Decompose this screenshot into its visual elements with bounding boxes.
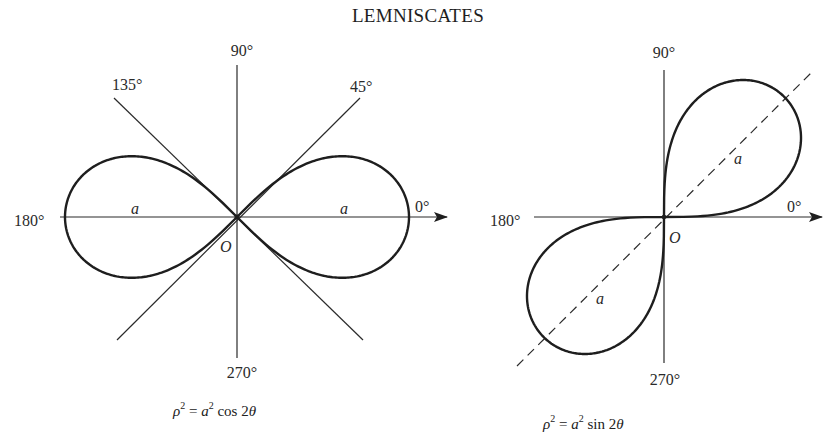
origin-point xyxy=(662,215,667,220)
label-135: 135° xyxy=(112,76,142,93)
label-45: 45° xyxy=(350,78,372,95)
equation-sin: ρ2 = a2 sin 2θ xyxy=(542,413,624,432)
radius-label-upper: a xyxy=(734,150,742,167)
label-270: 270° xyxy=(650,371,680,388)
lemniscates-figure: LEMNISCATES 90° 135° 45° 180° 0° 270° O … xyxy=(0,0,837,448)
label-270: 270° xyxy=(227,364,257,381)
label-0: 0° xyxy=(787,198,801,215)
sin-lemniscate-plot: 90° 180° 0° 270° O a a ρ2 = a2 sin 2θ xyxy=(490,44,822,432)
cos-lemniscate-plot: 90° 135° 45° 180° 0° 270° O a a ρ2 = a2 … xyxy=(14,42,447,419)
radius-label-right: a xyxy=(340,200,348,217)
label-180: 180° xyxy=(490,212,520,229)
radius-label-lower: a xyxy=(596,290,604,307)
origin-point xyxy=(235,215,240,220)
label-90: 90° xyxy=(231,42,253,59)
page-title: LEMNISCATES xyxy=(352,5,484,26)
label-0: 0° xyxy=(415,198,429,215)
label-180: 180° xyxy=(14,212,44,229)
origin-label: O xyxy=(220,238,232,255)
label-90: 90° xyxy=(653,44,675,61)
radius-label-left: a xyxy=(131,200,139,217)
origin-label: O xyxy=(669,229,681,246)
equation-cos: ρ2 = a2 cos 2θ xyxy=(172,400,257,419)
